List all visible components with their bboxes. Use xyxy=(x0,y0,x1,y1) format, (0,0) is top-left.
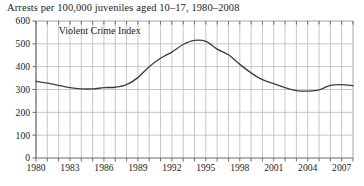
y-axis-tick-labels: 0100200300400500600 xyxy=(16,15,31,163)
line-chart: 0100200300400500600 19801983198619891992… xyxy=(0,0,364,186)
x-axis-tick-label: 2001 xyxy=(264,162,283,173)
y-axis-tick-label: 600 xyxy=(16,15,31,26)
x-axis-tick-label: 1989 xyxy=(128,162,147,173)
chart-annotations: Violent Crime Index xyxy=(59,25,141,36)
x-axis-tick-label: 1980 xyxy=(26,162,45,173)
x-axis-tick-label: 2007 xyxy=(332,162,351,173)
x-axis-tick-label: 1986 xyxy=(94,162,113,173)
x-axis-tick-label: 1983 xyxy=(60,162,79,173)
x-axis-tick-label: 1992 xyxy=(162,162,181,173)
series-annotation-label: Violent Crime Index xyxy=(59,25,141,36)
chart-figure: Arrests per 100,000 juveniles aged 10–17… xyxy=(0,0,364,186)
x-axis-tick-label: 1995 xyxy=(196,162,215,173)
x-axis-tick-labels: 1980198319861989199219951998200120042007 xyxy=(26,162,351,173)
y-axis-tick-label: 400 xyxy=(16,61,31,72)
x-axis-tick-label: 1998 xyxy=(230,162,249,173)
y-axis-tick-label: 500 xyxy=(16,38,31,49)
x-axis-tick-label: 2004 xyxy=(298,162,317,173)
y-axis-tick-label: 300 xyxy=(16,84,31,95)
y-axis-tick-label: 200 xyxy=(16,107,31,118)
y-axis-tick-label: 100 xyxy=(16,130,31,141)
